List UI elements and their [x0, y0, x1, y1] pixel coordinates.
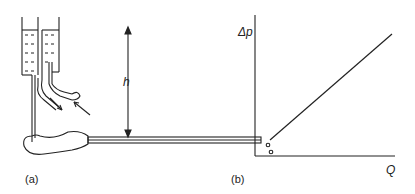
chart-line — [270, 34, 392, 140]
hand-hold — [24, 132, 88, 155]
drop-icon — [269, 150, 273, 154]
panel-a-label: (a) — [25, 174, 38, 185]
flow-arrow-in — [74, 102, 90, 115]
x-axis-label: Q — [386, 164, 395, 176]
reservoir-right — [42, 17, 59, 84]
y-axis-label: Δp — [238, 26, 253, 38]
flow-tubes — [38, 78, 80, 110]
diagram-canvas — [0, 0, 415, 194]
height-label: h — [123, 76, 130, 88]
panel-b-label: (b) — [231, 174, 244, 185]
reservoir-left — [22, 17, 38, 142]
drop-icon — [266, 143, 270, 147]
capillary-tube — [88, 137, 261, 143]
flow-arrow-out — [50, 98, 62, 110]
